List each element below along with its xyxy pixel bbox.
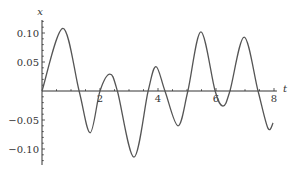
x-axis-label: t — [283, 83, 288, 94]
x-tick-label: 8 — [271, 93, 277, 104]
y-axis-label: x — [37, 6, 43, 17]
y-tick-label: −0.05 — [8, 115, 39, 126]
y-tick-label: 0.10 — [17, 28, 39, 39]
x-tick-label: 4 — [155, 93, 161, 104]
y-tick-label: 0.05 — [17, 57, 39, 68]
chart: 24680.100.05−0.05−0.10 x t — [0, 0, 298, 177]
y-tick-label: −0.10 — [8, 144, 39, 155]
